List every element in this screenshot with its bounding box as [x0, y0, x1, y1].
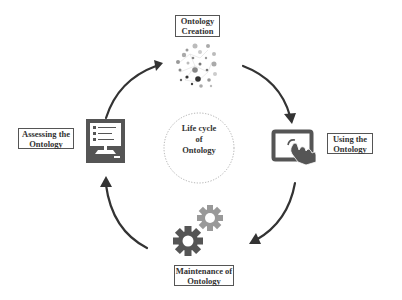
arrow-assessing-to-creation — [106, 60, 163, 118]
arrow-maintenance-to-assessing — [100, 176, 147, 248]
center-label-line-2: of — [164, 134, 234, 145]
network-dots-icon — [176, 44, 217, 88]
monitor-checklist-icon — [86, 119, 125, 163]
arrow-using-to-maintenance — [249, 183, 295, 244]
center-label-line-3: Ontology — [164, 145, 234, 156]
stage-label-line-1: Using the — [333, 134, 367, 144]
stage-ontology-creation: Ontology Creation — [175, 15, 220, 37]
stage-using-ontology: Using the Ontology — [327, 133, 373, 154]
arrow-creation-to-using — [243, 66, 296, 124]
stage-maintenance-ontology: Maintenance of Ontology — [174, 265, 234, 286]
stage-label-line-2: Ontology — [29, 139, 63, 149]
gears-icon — [173, 205, 223, 256]
stage-label-line-1: Assessing the — [22, 129, 70, 139]
center-label: Life cycle of Ontology — [164, 123, 234, 156]
stage-label-line-1: Maintenance of — [176, 266, 232, 276]
touch-screen-icon — [274, 132, 317, 166]
stage-label-line-2: Ontology — [187, 276, 221, 286]
stage-label-line-2: Ontology — [333, 144, 367, 154]
stage-label-line-2: Creation — [182, 26, 214, 36]
center-label-line-1: Life cycle — [164, 123, 234, 134]
lifecycle-diagram: Life cycle of Ontology Ontology Creation… — [0, 0, 402, 300]
stage-assessing-ontology: Assessing the Ontology — [18, 128, 74, 149]
stage-label-line-1: Ontology — [181, 16, 215, 26]
